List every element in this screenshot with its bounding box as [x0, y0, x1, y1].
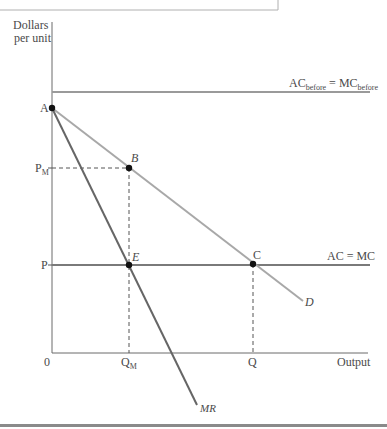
origin-label: 0 [44, 355, 50, 369]
bottom-divider [0, 424, 387, 427]
x-tick-q: Q [248, 355, 257, 369]
label-point-e: E [131, 250, 140, 264]
y-tick-p: P [41, 258, 48, 272]
label-point-b: B [131, 151, 139, 165]
label-ac-before: ACbefore = MCbefore [289, 76, 378, 92]
label-demand: D [304, 295, 314, 309]
point-b [126, 165, 132, 171]
y-axis-label-line1: Dollars [13, 18, 49, 32]
y-tick-pm: PM [35, 161, 49, 177]
x-axis-label: Output [337, 355, 371, 369]
point-a [49, 105, 55, 111]
label-mr: MR [199, 402, 216, 414]
x-tick-qm: QM [121, 355, 137, 371]
label-ac-mc: AC = MC [327, 249, 375, 263]
top-box-border [0, 0, 278, 10]
demand-curve [52, 108, 303, 301]
label-point-c: C [253, 248, 261, 262]
y-axis-label-line2: per unit [14, 31, 52, 45]
label-point-a: A [40, 101, 49, 115]
monopoly-diagram: Dollars per unit ACbefore = MCbefore A B… [0, 0, 387, 429]
